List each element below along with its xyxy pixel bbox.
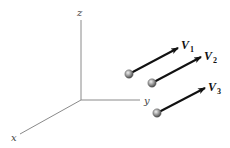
vector-v1: V1 — [125, 38, 194, 78]
vector-diagram: z y x V1 V2 V3 — [0, 0, 230, 148]
arrow-v1 — [129, 48, 178, 74]
label-v3: V3 — [208, 80, 221, 96]
ball-v1-icon — [125, 70, 133, 78]
x-axis-label: x — [11, 132, 17, 143]
vector-v3: V3 — [153, 80, 221, 117]
vector-v2: V2 — [148, 49, 217, 87]
x-axis — [20, 100, 81, 134]
arrow-v3 — [157, 88, 205, 113]
ball-v2-icon — [148, 79, 156, 87]
arrow-v2 — [152, 57, 201, 83]
y-axis-label: y — [143, 95, 150, 106]
ball-v3-icon — [153, 109, 161, 117]
label-v1: V1 — [181, 38, 194, 54]
label-v2: V2 — [204, 49, 217, 65]
z-axis-label: z — [76, 7, 83, 18]
